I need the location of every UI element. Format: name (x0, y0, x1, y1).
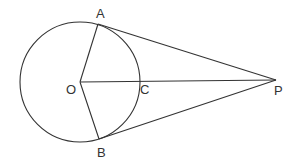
geometry-diagram: A O C B P (0, 0, 298, 162)
tangent-ap (98, 24, 276, 80)
label-b: B (97, 145, 106, 160)
label-a: A (96, 6, 105, 21)
segment-op (80, 80, 276, 82)
label-o: O (66, 82, 76, 97)
tangent-bp (99, 80, 276, 139)
radius-oa (80, 24, 98, 82)
label-p: P (274, 83, 283, 98)
radius-ob (80, 82, 99, 139)
label-c: C (140, 82, 149, 97)
